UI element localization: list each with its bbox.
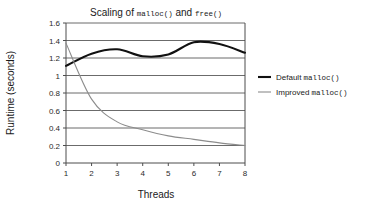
y-tick-label: 0.2 <box>49 142 61 151</box>
x-tick-label: 7 <box>217 169 222 178</box>
legend-label-2: Improved malloc() <box>276 88 348 97</box>
x-tick-label: 1 <box>64 169 69 178</box>
y-tick-label: 1.4 <box>49 37 61 46</box>
y-tick-label: 0.8 <box>49 89 61 98</box>
y-tick-label: 0.6 <box>49 107 61 116</box>
x-tick-label: 4 <box>140 169 145 178</box>
x-tick-label: 8 <box>243 169 248 178</box>
x-tick-label: 2 <box>89 169 94 178</box>
y-axis-label: Runtime (seconds) <box>5 51 16 135</box>
x-axis-label: Threads <box>138 189 175 200</box>
x-tick-label: 3 <box>115 169 120 178</box>
y-tick-label: 0.4 <box>49 124 61 133</box>
chart-background <box>0 0 370 204</box>
legend-label-1: Default malloc() <box>276 73 340 82</box>
x-tick-label: 6 <box>192 169 197 178</box>
y-tick-label: 1.6 <box>49 19 61 28</box>
x-tick-label: 5 <box>166 169 171 178</box>
chart-figure: Scaling of malloc() and free() Runtime (… <box>0 0 370 204</box>
y-tick-label: 1.2 <box>49 54 61 63</box>
y-tick-label: 0 <box>56 159 61 168</box>
y-tick-label: 1 <box>56 72 61 81</box>
chart-svg: Scaling of malloc() and free() Runtime (… <box>0 0 370 204</box>
